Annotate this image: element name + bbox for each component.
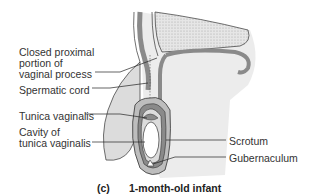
label-cavity-line2: tunica vaginalis [19, 137, 91, 149]
label-gubernaculum: Gubernaculum [229, 152, 298, 164]
panel-letter: (c) [97, 182, 110, 194]
label-tunica-vaginalis: Tunica vaginalis [19, 110, 94, 122]
anatomy-figure: Closed proximal portion of vaginal proce… [0, 0, 317, 194]
testis [143, 122, 159, 158]
anatomy-illustration [0, 0, 317, 194]
label-spermatic-cord: Spermatic cord [19, 84, 90, 96]
label-closed-proximal-line3: vaginal process [19, 68, 92, 80]
figure-caption: 1-month-old infant [129, 182, 221, 194]
pubic-region [155, 12, 249, 52]
label-scrotum: Scrotum [229, 135, 268, 147]
